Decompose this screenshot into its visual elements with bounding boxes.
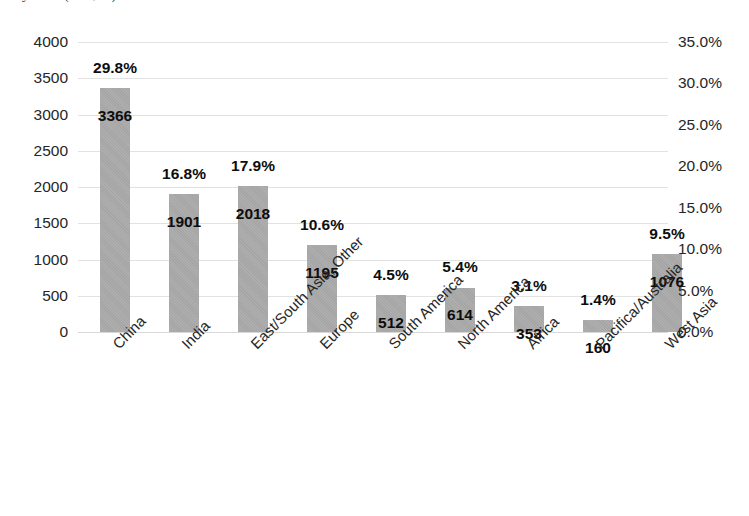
value-data-label: 3366 [98, 108, 132, 124]
cropped-title-text: y 2014 (MW, %) [22, 0, 442, 3]
percent-data-label: 5.4% [442, 259, 477, 275]
right-axis-tick-label: 30.0% [678, 75, 722, 91]
right-axis-tick-label: 25.0% [678, 117, 722, 133]
left-axis-tick-label: 3000 [34, 107, 68, 123]
percent-data-label: 29.8% [93, 60, 137, 76]
right-axis-tick-label: 20.0% [678, 158, 722, 174]
percent-data-label: 1.4% [580, 292, 615, 308]
left-axis-tick-label: 4000 [34, 34, 68, 50]
percent-data-label: 4.5% [373, 267, 408, 283]
gridline [78, 151, 668, 152]
left-axis-tick-label: 3500 [34, 70, 68, 86]
gridline [78, 187, 668, 188]
left-axis-tick-label: 1500 [34, 215, 68, 231]
gridline [78, 42, 668, 43]
value-data-label: 2018 [236, 206, 270, 222]
percent-data-label: 16.8% [162, 166, 206, 182]
left-axis-tick-label: 0 [59, 324, 68, 340]
gridline [78, 332, 668, 333]
plot-area [78, 42, 668, 332]
right-axis-tick-label: 35.0% [678, 34, 722, 50]
right-axis-tick-label: 15.0% [678, 200, 722, 216]
percent-data-label: 9.5% [649, 226, 684, 242]
percent-data-label: 10.6% [300, 217, 344, 233]
left-axis-tick-label: 2000 [34, 179, 68, 195]
left-axis-tick-label: 2500 [34, 143, 68, 159]
left-axis-tick-label: 1000 [34, 252, 68, 268]
gridline [78, 260, 668, 261]
bar [100, 88, 130, 332]
value-data-label: 1901 [167, 214, 201, 230]
bar-chart: y 2014 (MW, %) 0500100015002000250030003… [0, 0, 749, 516]
percent-data-label: 17.9% [231, 158, 275, 174]
right-axis-tick-label: 10.0% [678, 241, 722, 257]
gridline [78, 115, 668, 116]
value-data-label: 614 [447, 307, 473, 323]
gridline [78, 78, 668, 79]
left-axis-tick-label: 500 [42, 288, 68, 304]
